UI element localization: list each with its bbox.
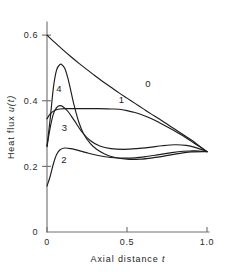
x-axis-ticks: [47, 227, 207, 232]
curve-3: [47, 106, 207, 152]
y-tick-label-0.2: 0.2: [24, 162, 38, 172]
curve-label-4: 4: [56, 83, 61, 94]
heat-flux-line-chart: 00.20.40.6 00.51.0 01234 Axial distance …: [0, 0, 237, 272]
y-axis-tick-labels: 00.20.40.6: [24, 30, 38, 237]
x-tick-label-0.5: 0.5: [120, 237, 134, 247]
x-axis-tick-labels: 00.51.0: [44, 237, 214, 247]
x-axis: [47, 227, 209, 232]
y-axis-title: Heat flux u(t): [6, 95, 16, 159]
curve-label-0: 0: [145, 78, 150, 89]
chart-figure: 00.20.40.6 00.51.0 01234 Axial distance …: [0, 0, 237, 272]
y-tick-label-0.6: 0.6: [24, 30, 38, 40]
y-tick-label-0.4: 0.4: [24, 96, 38, 106]
curve-2: [47, 148, 207, 186]
x-axis-title: Axial distance t: [91, 254, 166, 264]
curve-label-2: 2: [61, 154, 66, 165]
curve-label-3: 3: [62, 122, 67, 133]
data-curves: [47, 35, 207, 186]
curve-label-1: 1: [119, 94, 124, 105]
x-tick-label-0: 0: [44, 237, 50, 247]
y-tick-label-0: 0: [32, 227, 38, 237]
x-tick-label-1.0: 1.0: [200, 237, 214, 247]
